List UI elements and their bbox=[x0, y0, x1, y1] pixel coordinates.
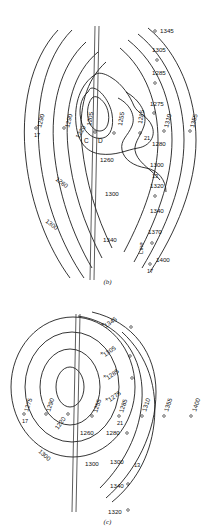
seismic-line-label: Line bbox=[137, 242, 144, 254]
contour-label: 1275 bbox=[150, 100, 164, 107]
contour-label: 1255 bbox=[91, 398, 102, 414]
well-symbol bbox=[130, 326, 133, 329]
contour-set-c bbox=[11, 312, 156, 502]
well-number: 13 bbox=[134, 462, 140, 468]
contour-label: 1285 bbox=[105, 367, 121, 381]
cross-marker: × bbox=[105, 396, 108, 402]
seismic-line-c bbox=[72, 314, 80, 512]
well-symbol bbox=[151, 242, 154, 245]
well-symbol bbox=[113, 132, 116, 135]
contour-label: 1355 bbox=[162, 397, 173, 413]
contour-label: 1305 bbox=[102, 344, 118, 358]
contour-label: 1300 bbox=[37, 448, 52, 463]
contour-label: 1300 bbox=[105, 190, 119, 197]
contour-label: 1340 bbox=[110, 482, 124, 489]
contour-label: 1345 bbox=[160, 27, 174, 34]
contour-label: 1260 bbox=[100, 156, 114, 163]
well-symbol bbox=[127, 509, 130, 512]
contour-label: 1260 bbox=[54, 175, 70, 189]
well-symbol bbox=[67, 413, 70, 416]
figure-contour-maps: 1345 1305 1285 1275 1310 1355 1290 17 12… bbox=[0, 0, 215, 532]
contour-label-group-c: 1345 × 1305 × 1285 × 1275 × 1285 21 1310… bbox=[22, 315, 201, 515]
panel-c-caption: (c) bbox=[0, 518, 215, 526]
well-symbol bbox=[141, 415, 144, 418]
cross-marker: × bbox=[101, 321, 104, 327]
cross-marker: × bbox=[103, 373, 106, 379]
contour-label: 1285 bbox=[117, 398, 128, 414]
contour-label: 1290 bbox=[63, 113, 73, 129]
well-symbol bbox=[154, 82, 157, 85]
contour-label: 1340 bbox=[150, 207, 164, 214]
contour-label: 1300 bbox=[85, 460, 99, 467]
well-symbol bbox=[131, 377, 134, 380]
contour-label: 1285 bbox=[152, 69, 166, 76]
panel-c-contour-map: 1345 × 1305 × 1285 × 1275 × 1285 21 1310… bbox=[0, 292, 215, 532]
contour-label: 1275 bbox=[22, 397, 33, 413]
contour-label: 1300 bbox=[110, 458, 124, 465]
well-symbol bbox=[91, 415, 94, 418]
well-number: 17 bbox=[22, 418, 28, 424]
contour-label: 1285 bbox=[136, 109, 145, 124]
well-symbol bbox=[126, 432, 129, 435]
well-symbol bbox=[154, 195, 157, 198]
contour-label: 1370 bbox=[148, 228, 162, 235]
marker-d-label: D bbox=[98, 137, 103, 144]
well-symbol bbox=[163, 415, 166, 418]
contour-label: 1255 bbox=[116, 111, 125, 126]
contour-label: 1260 bbox=[80, 429, 94, 436]
well-number: 21 bbox=[117, 420, 123, 426]
contour-label-group-b: 1345 1305 1285 1275 1310 1355 1290 17 12… bbox=[34, 27, 199, 274]
contour-label: 1280 bbox=[152, 140, 166, 147]
contour-label: 1280 bbox=[106, 429, 120, 436]
contour-label: 1300 bbox=[150, 161, 164, 168]
contour-label: 1355 bbox=[188, 113, 198, 129]
panel-b-svg: 1345 1305 1285 1275 1310 1355 1290 17 12… bbox=[0, 0, 215, 290]
well-symbol bbox=[45, 413, 48, 416]
well-symbol bbox=[127, 483, 130, 486]
contour-label: 1220 bbox=[53, 415, 67, 431]
well-symbol bbox=[190, 415, 193, 418]
well-number: 17 bbox=[147, 268, 153, 274]
well-symbol bbox=[189, 130, 192, 133]
well-symbol bbox=[163, 130, 166, 133]
contour-label: 1305 bbox=[152, 46, 166, 53]
well-symbol bbox=[118, 415, 121, 418]
well-symbol bbox=[94, 131, 97, 134]
contour-label: 1300 bbox=[44, 217, 60, 231]
well-symbol bbox=[153, 112, 156, 115]
marker-c-label: C bbox=[84, 137, 89, 144]
panel-b-contour-map: 1345 1305 1285 1275 1310 1355 1290 17 12… bbox=[0, 0, 215, 290]
contour-label: 1340 bbox=[103, 236, 117, 243]
well-number: 13 bbox=[152, 173, 158, 179]
well-symbol bbox=[23, 413, 26, 416]
well-number: 21 bbox=[144, 135, 150, 141]
contour-label: 1345 bbox=[103, 315, 119, 329]
well-symbol bbox=[149, 263, 152, 266]
contour-label: 1320 bbox=[108, 508, 122, 515]
contour-label: 1400 bbox=[156, 256, 170, 263]
contour-label: 1320 bbox=[150, 182, 164, 189]
cross-marker: × bbox=[100, 350, 103, 356]
panel-b-caption: (b) bbox=[0, 278, 215, 286]
contour-label: 1400 bbox=[190, 397, 201, 413]
well-symbol bbox=[154, 30, 157, 33]
contour-label: 1290 bbox=[44, 397, 55, 413]
well-symbol bbox=[156, 59, 159, 62]
well-number: 17 bbox=[34, 132, 40, 138]
contour-label: 1290 bbox=[35, 113, 45, 129]
panel-c-svg: 1345 × 1305 × 1285 × 1275 × 1285 21 1310… bbox=[0, 292, 215, 532]
